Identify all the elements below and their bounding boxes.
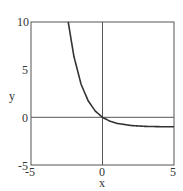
x-tick-min: -5 [25,166,35,178]
y-tick-5: 5 [22,64,28,76]
y-tick-10: 10 [17,16,29,28]
x-axis-label: x [99,177,105,189]
y-axis-label: y [9,90,15,102]
x-tick-max: 5 [170,166,176,178]
data-curve [68,22,174,127]
y-tick-0: 0 [22,112,28,124]
